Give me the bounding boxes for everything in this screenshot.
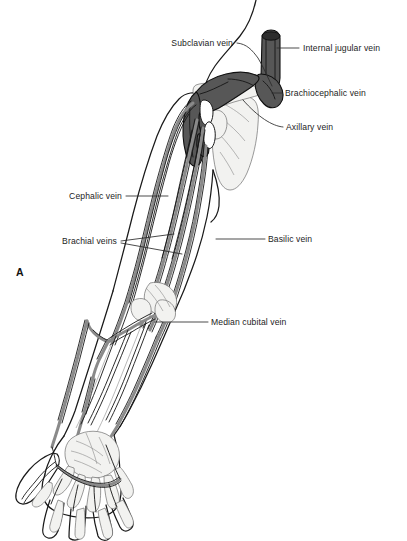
label-axillary-vein: Axillary vein [286,122,333,132]
brachial-plexus-pale [204,122,216,149]
panel-letter-a: A [16,266,24,278]
phalanx-middle-proximal [75,508,85,539]
label-brachial-veins: Brachial veins [62,236,117,246]
figure-background [0,0,407,541]
label-brachiocephalic-vein: Brachiocephalic vein [285,88,366,98]
label-cephalic-vein: Cephalic vein [69,191,122,201]
label-median-cubital-vein: Median cubital vein [211,317,287,327]
label-internal-jugular-vein: Internal jugular vein [303,43,380,53]
axillary-artery-pale [200,100,213,125]
anatomy-figure-panel: Subclavian veinInternal jugular veinBrac… [0,0,407,541]
label-subclavian-vein: Subclavian vein [171,38,233,48]
internal-jugular-cut-end [262,32,280,40]
upper-limb-vein-illustration: Subclavian veinInternal jugular veinBrac… [0,0,407,541]
label-basilic-vein: Basilic vein [268,234,312,244]
